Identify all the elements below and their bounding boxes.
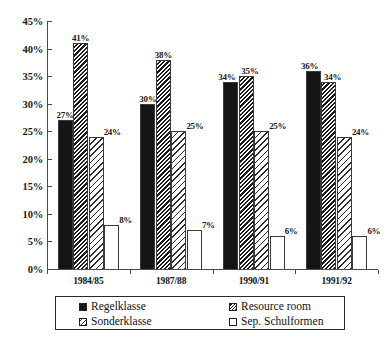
x-axis-category-label: 1984/85	[47, 276, 130, 286]
legend: RegelklasseResource roomSonderklasseSep.…	[55, 296, 345, 330]
bar: 24%	[89, 137, 104, 269]
bar-value-label: 6%	[367, 226, 380, 236]
bar-value-label: 36%	[301, 61, 318, 71]
bar: 6%	[352, 236, 367, 269]
y-axis-tick-label: 40%	[23, 43, 43, 54]
y-axis-tick-label: 35%	[23, 71, 43, 82]
y-axis-tick-label: 45%	[23, 16, 43, 27]
bar: 36%	[306, 71, 321, 269]
bar: 24%	[337, 137, 352, 269]
y-axis-tick	[48, 269, 52, 270]
bar-value-label: 25%	[269, 121, 286, 131]
plot-area: 0%5%10%15%20%25%30%35%40%45% 27%41%24%8%…	[47, 18, 378, 272]
x-axis-tick	[295, 270, 296, 274]
bar-group: 30%38%25%7%	[130, 21, 213, 269]
y-axis-tick-label: 10%	[23, 208, 43, 219]
bar: 8%	[104, 225, 119, 269]
bar-value-label: 24%	[352, 127, 369, 137]
x-axis-tick	[130, 270, 131, 274]
legend-item: Regelklasse	[79, 301, 229, 313]
y-axis-tick-label: 5%	[28, 236, 43, 247]
y-axis-tick-label: 25%	[23, 126, 43, 137]
legend-swatch-icon	[229, 318, 237, 326]
bar: 25%	[171, 131, 186, 269]
legend-item-label: Sonderklasse	[91, 316, 152, 328]
bar: 35%	[239, 76, 254, 269]
bar: 34%	[223, 82, 238, 269]
bar-value-label: 38%	[155, 50, 172, 60]
legend-item: Sonderklasse	[79, 316, 229, 328]
bar: 25%	[254, 131, 269, 269]
x-axis-tick	[47, 270, 48, 274]
bar: 6%	[270, 236, 285, 269]
bar-value-label: 34%	[324, 72, 341, 82]
legend-item: Sep. Schulformen	[229, 316, 369, 328]
bar-chart: 0%5%10%15%20%25%30%35%40%45% 27%41%24%8%…	[0, 0, 391, 344]
legend-item-label: Sep. Schulformen	[241, 316, 323, 328]
bar-group: 27%41%24%8%	[47, 21, 130, 269]
bar-value-label: 25%	[186, 121, 203, 131]
bar: 34%	[321, 82, 336, 269]
legend-item-label: Regelklasse	[91, 301, 146, 313]
bar-value-label: 34%	[218, 72, 235, 82]
legend-swatch-icon	[229, 303, 237, 311]
bar-value-label: 41%	[72, 33, 89, 43]
x-axis-category-label: 1990/91	[213, 276, 296, 286]
legend-swatch-icon	[79, 318, 87, 326]
bar-group: 36%34%24%6%	[295, 21, 378, 269]
y-axis-tick-label: 0%	[28, 264, 43, 275]
bar: 27%	[58, 120, 73, 269]
bar: 41%	[73, 43, 88, 269]
legend-item: Resource room	[229, 301, 369, 313]
y-axis-tick-label: 30%	[23, 98, 43, 109]
bar-value-label: 30%	[139, 94, 156, 104]
legend-swatch-icon	[79, 303, 87, 311]
bar-value-label: 35%	[241, 66, 258, 76]
x-axis-tick	[378, 270, 379, 274]
y-axis-tick-label: 15%	[23, 181, 43, 192]
x-axis-category-label: 1987/88	[130, 276, 213, 286]
bar: 7%	[187, 230, 202, 269]
bar-value-label: 24%	[104, 127, 121, 137]
legend-grid: RegelklasseResource roomSonderklasseSep.…	[56, 299, 344, 329]
legend-item-label: Resource room	[241, 301, 311, 313]
bar-group: 34%35%25%6%	[213, 21, 296, 269]
bar: 38%	[156, 60, 171, 269]
x-axis-category-label: 1991/92	[295, 276, 378, 286]
bar-value-label: 27%	[57, 110, 74, 120]
bar: 30%	[140, 104, 155, 269]
x-axis-tick	[213, 270, 214, 274]
y-axis-tick-label: 20%	[23, 153, 43, 164]
